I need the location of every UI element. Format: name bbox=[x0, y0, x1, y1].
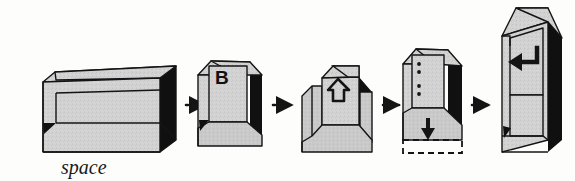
b-key-glyph: B bbox=[215, 67, 229, 88]
keycap-enter bbox=[502, 8, 562, 152]
enter-lower-plate bbox=[510, 95, 543, 136]
keycap-progression-figure: space B bbox=[0, 0, 575, 181]
enter-shadow-face bbox=[548, 22, 562, 152]
figure-canvas: space B bbox=[0, 0, 575, 181]
keycap-letter-b: B bbox=[198, 61, 262, 146]
space-key-caption: space bbox=[61, 156, 107, 179]
space-front-face bbox=[43, 78, 160, 152]
keycap-dotted-travel bbox=[403, 49, 462, 153]
space-shadow-face bbox=[160, 66, 176, 152]
dotted-keycap-plate bbox=[412, 55, 444, 108]
keycap-space bbox=[43, 66, 176, 152]
